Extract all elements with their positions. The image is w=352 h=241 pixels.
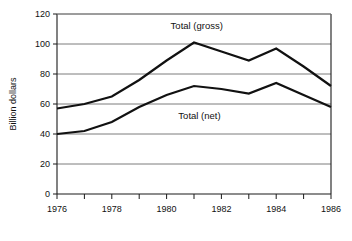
series-annotation-total-gross: Total (gross) xyxy=(171,20,223,31)
series-line-total-net xyxy=(57,83,331,134)
tick-marks xyxy=(53,14,331,199)
y-tick-label-100: 100 xyxy=(35,39,50,49)
x-tick-label-1982: 1982 xyxy=(211,204,231,214)
y-tick-label-60: 60 xyxy=(40,99,50,109)
y-axis-title: Billion dollars xyxy=(8,77,18,131)
y-tick-label-120: 120 xyxy=(35,9,50,19)
y-axis-tick-labels: 020406080100120 xyxy=(35,9,50,199)
y-tick-label-20: 20 xyxy=(40,159,50,169)
series-line-total-gross xyxy=(57,43,331,109)
x-tick-label-1980: 1980 xyxy=(157,204,177,214)
series-annotations: Total (gross)Total (net) xyxy=(171,20,223,121)
x-tick-label-1986: 1986 xyxy=(321,204,341,214)
chart-container: 020406080100120 197619781980198219841986… xyxy=(0,0,352,241)
x-tick-label-1976: 1976 xyxy=(47,204,67,214)
y-axis-title-label: Billion dollars xyxy=(8,77,18,131)
x-tick-label-1978: 1978 xyxy=(102,204,122,214)
series-annotation-total-net: Total (net) xyxy=(178,110,220,121)
x-axis-tick-labels: 197619781980198219841986 xyxy=(47,204,341,214)
y-tick-label-40: 40 xyxy=(40,129,50,139)
line-chart: 020406080100120 197619781980198219841986… xyxy=(0,0,352,241)
x-tick-label-1984: 1984 xyxy=(266,204,286,214)
y-tick-label-0: 0 xyxy=(45,189,50,199)
y-tick-label-80: 80 xyxy=(40,69,50,79)
